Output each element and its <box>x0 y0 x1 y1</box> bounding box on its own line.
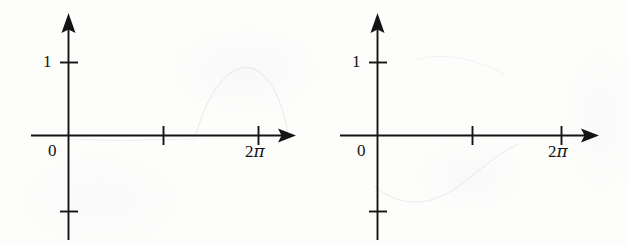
ghost-curve-artifact <box>196 68 288 136</box>
figure-canvas: 1 0 2π 1 0 2π <box>0 0 628 245</box>
pi-symbol: π <box>557 141 568 161</box>
y-axis-label-one: 1 <box>352 53 361 70</box>
axes-panel-left: 1 0 2π <box>0 0 314 245</box>
ghost-curve-artifact-secondary <box>70 139 196 140</box>
origin-label: 0 <box>48 142 57 159</box>
y-axis-label-one: 1 <box>43 53 52 70</box>
ghost-curve-artifact-secondary <box>414 56 504 74</box>
two-pi-coefficient: 2 <box>548 142 557 161</box>
x-axis-label-two-pi: 2π <box>245 143 265 160</box>
x-axis-label-two-pi: 2π <box>548 143 568 160</box>
origin-label: 0 <box>357 142 366 159</box>
axes-panel-right: 1 0 2π <box>314 0 628 245</box>
two-pi-coefficient: 2 <box>245 142 254 161</box>
ghost-curve-artifact <box>374 144 519 202</box>
pi-symbol: π <box>254 141 265 161</box>
